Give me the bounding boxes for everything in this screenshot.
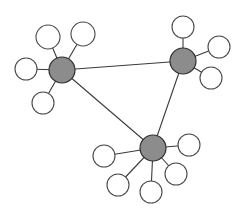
hub-edge (153, 61, 183, 148)
leaf-node (32, 92, 54, 114)
leaf-node (140, 181, 162, 203)
leaf-node (208, 36, 230, 58)
leaf-node (200, 67, 222, 89)
leaf-node (165, 163, 187, 185)
hub-node (49, 57, 75, 83)
leaf-node (178, 134, 200, 156)
hub-edge (62, 61, 183, 70)
leaf-node (36, 25, 60, 49)
leaf-node (15, 58, 37, 80)
leaf-node (71, 22, 95, 46)
leaf-nodes-layer (15, 16, 230, 203)
hub-edge (62, 70, 153, 148)
leaf-node (107, 174, 129, 196)
leaf-node (172, 16, 194, 38)
leaf-node (93, 145, 115, 167)
hub-node (140, 135, 166, 161)
network-diagram (0, 0, 244, 213)
hub-node (170, 48, 196, 74)
